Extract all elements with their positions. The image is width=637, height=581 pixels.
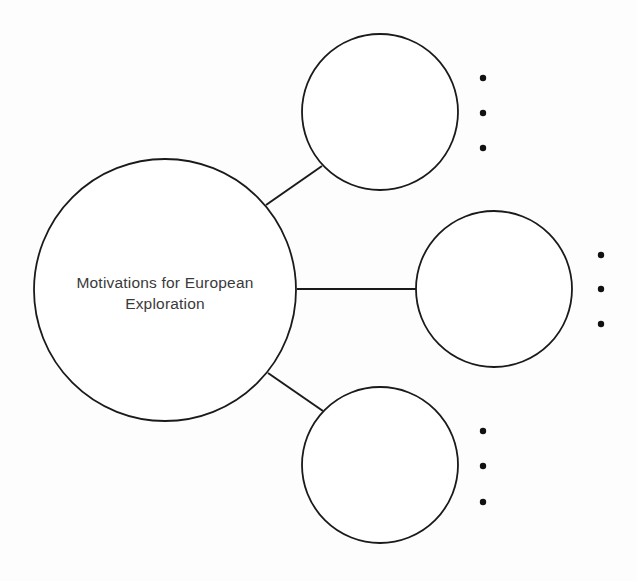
- branch-node-middle[interactable]: [416, 211, 572, 367]
- bullet-middle-3: [598, 321, 604, 327]
- bullet-bottom-1: [480, 428, 486, 434]
- central-node-label: Motivations for European Exploration: [35, 272, 295, 314]
- bullet-middle-2: [598, 286, 604, 292]
- bullet-bottom-2: [480, 463, 486, 469]
- bullet-top-3: [480, 145, 486, 151]
- branch-node-bottom[interactable]: [302, 387, 458, 543]
- branch-node-top[interactable]: [302, 34, 458, 190]
- bullet-top-1: [480, 75, 486, 81]
- connector-bottom: [268, 373, 323, 411]
- bullet-top-2: [480, 110, 486, 116]
- bullet-middle-1: [598, 252, 604, 258]
- connector-top: [266, 166, 322, 205]
- central-node-label-line-2: Exploration: [35, 293, 295, 314]
- central-node-label-line-1: Motivations for European: [35, 272, 295, 293]
- bullet-bottom-3: [480, 499, 486, 505]
